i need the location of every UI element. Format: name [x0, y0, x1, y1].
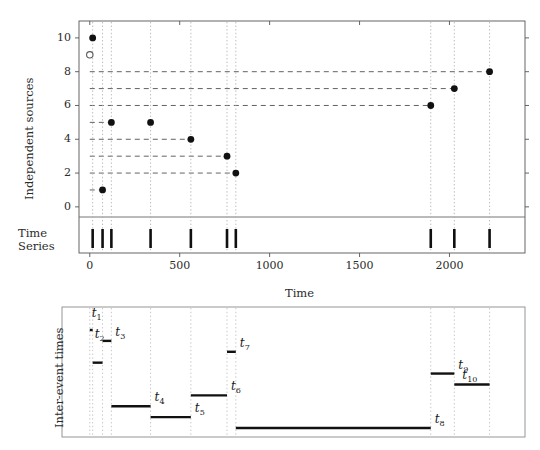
inter-event-label-10: t10: [462, 368, 477, 384]
bottom-panel-ylabel: Inter-event times: [52, 328, 66, 428]
y-tick-label: 10: [45, 31, 71, 44]
x-tick-label: 1000: [240, 259, 300, 272]
y-tick-label: 6: [45, 98, 71, 111]
time-series-strip: [90, 21, 490, 257]
inter-event-label-3: t3: [115, 325, 125, 341]
x-tick-label: 0: [60, 259, 120, 272]
x-tick-label: 1500: [330, 259, 390, 272]
top-panel-xlabel: Time: [285, 286, 314, 300]
bottom-panel-axes: [62, 307, 525, 437]
x-tick-label: 500: [150, 259, 210, 272]
y-tick-label: 4: [45, 132, 71, 145]
y-tick-label: 8: [45, 65, 71, 78]
inter-event-label-2: t2: [95, 327, 105, 343]
x-tick-label: 2000: [419, 259, 479, 272]
inter-event-label-8: t8: [435, 412, 445, 428]
figure-canvas: [0, 0, 540, 450]
inter-event-label-1: t1: [92, 306, 102, 322]
y-tick-label: 2: [45, 166, 71, 179]
inter-event-label-4: t4: [155, 390, 165, 406]
time-series-strip-label-line2: Series: [18, 240, 55, 253]
y-tick-label: 0: [45, 200, 71, 213]
top-panel-axes: [75, 21, 529, 253]
inter-event-label-5: t5: [195, 401, 205, 417]
inter-event-label-7: t7: [240, 336, 250, 352]
time-series-strip-label: Time Series: [18, 227, 55, 253]
inter-event-label-6: t6: [231, 379, 241, 395]
top-panel-ylabel: Independent sources: [22, 78, 36, 200]
